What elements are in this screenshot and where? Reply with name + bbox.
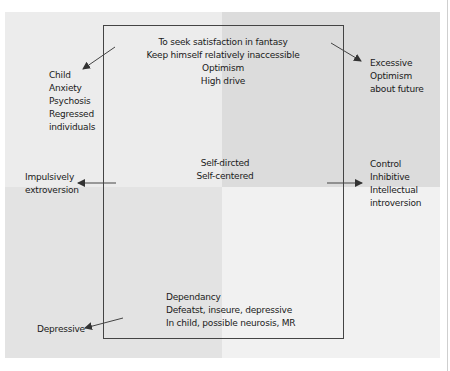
arrows-layer: [0, 0, 450, 371]
arrow-to-top-left: [83, 47, 115, 69]
arrow-to-bottom-left: [85, 318, 123, 328]
arrow-to-top-right: [331, 43, 361, 61]
